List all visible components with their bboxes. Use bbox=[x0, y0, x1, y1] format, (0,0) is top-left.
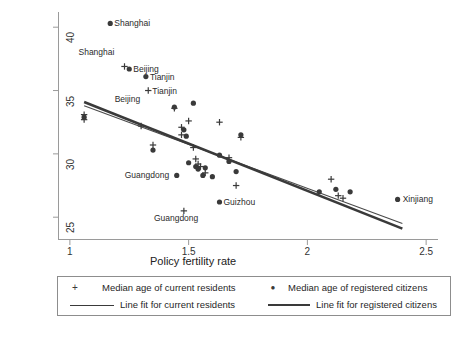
plot-area: 2530354011.522.5 ShanghaiShanghaiBeijing… bbox=[58, 12, 438, 240]
point-label: Guangdong bbox=[125, 171, 169, 180]
point-label: Guangdong bbox=[154, 214, 198, 223]
point-label: Shanghai bbox=[114, 19, 150, 28]
y-tick-label: 30 bbox=[65, 152, 76, 176]
legend-row-markers: + Median age of current residents ● Medi… bbox=[58, 279, 450, 297]
point-label: Guizhou bbox=[224, 198, 256, 207]
point-label: Beijing bbox=[115, 95, 141, 104]
legend-label-fit-current: Line fit for current residents bbox=[120, 296, 235, 314]
x-axis-title: Policy fertility rate bbox=[150, 255, 236, 267]
thick-line-swatch-icon bbox=[268, 304, 310, 306]
chart-legend: + Median age of current residents ● Medi… bbox=[57, 276, 451, 316]
thin-line-swatch-icon bbox=[70, 305, 114, 306]
y-tick-label: 25 bbox=[65, 216, 76, 240]
x-tick-label: 1 bbox=[55, 246, 85, 257]
dot-marker-icon: ● bbox=[266, 279, 280, 297]
legend-label-registered-citizens: Median age of registered citizens bbox=[288, 279, 427, 297]
legend-label-fit-registered: Line fit for registered citizens bbox=[316, 296, 437, 314]
point-label: Tianjin bbox=[150, 73, 175, 82]
legend-row-lines: Line fit for current residents Line fit … bbox=[58, 296, 450, 314]
fit-lines bbox=[84, 102, 402, 229]
legend-label-current-residents: Median age of current residents bbox=[102, 279, 236, 297]
x-tick-label: 2 bbox=[292, 246, 322, 257]
point-label: Shanghai bbox=[79, 48, 115, 57]
point-label: Tianjin bbox=[152, 87, 177, 96]
y-tick-label: 35 bbox=[65, 89, 76, 113]
plus-marker-icon: + bbox=[68, 279, 82, 297]
chart-figure: Median age of population in 2000 2530354… bbox=[0, 0, 464, 337]
point-label: Xinjiang bbox=[403, 195, 433, 204]
x-tick-label: 2.5 bbox=[411, 246, 441, 257]
y-tick-label: 40 bbox=[65, 26, 76, 50]
